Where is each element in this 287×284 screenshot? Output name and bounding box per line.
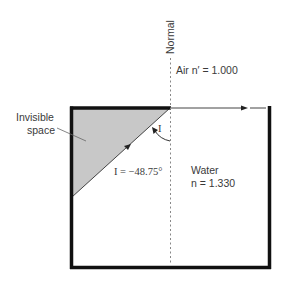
angle-value-text: I = −48.75° xyxy=(114,166,162,177)
invisible-space-label-line1: Invisible xyxy=(16,111,54,123)
refracted-ray-arrow-icon xyxy=(241,106,248,111)
invisible-space-label-line2: space xyxy=(27,124,55,136)
refraction-diagram: Normal Air n′ = 1.000 Invisible space I … xyxy=(0,0,287,284)
air-label: Air n′ = 1.000 xyxy=(176,64,238,76)
water-index-label: n = 1.330 xyxy=(191,177,235,189)
water-label: Water xyxy=(191,164,219,176)
normal-label: Normal xyxy=(164,20,176,54)
angle-symbol-label: I xyxy=(158,123,162,134)
angle-value-label: I = −48.75° xyxy=(114,166,162,177)
